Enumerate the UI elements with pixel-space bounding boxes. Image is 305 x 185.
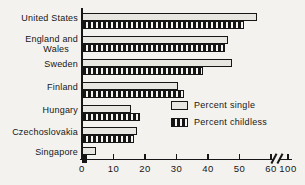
x-tick-label: 100 bbox=[279, 163, 296, 174]
x-tick bbox=[207, 154, 209, 159]
country-label: England andWales bbox=[0, 34, 78, 54]
x-tick-label: 60 bbox=[265, 163, 277, 174]
country-label: Czechoslovakia bbox=[0, 127, 78, 137]
legend-swatch-single-icon bbox=[171, 101, 188, 110]
x-tick-label: 10 bbox=[108, 163, 120, 174]
x-tick bbox=[239, 154, 241, 159]
bar-percent-childless bbox=[82, 113, 140, 121]
bar-percent-single bbox=[82, 82, 178, 90]
legend-item-childless: Percent childless bbox=[171, 117, 267, 127]
legend-swatch-childless-icon bbox=[171, 118, 188, 127]
x-tick-label: 50 bbox=[234, 163, 246, 174]
x-tick-label: 0 bbox=[79, 163, 85, 174]
x-axis bbox=[80, 159, 273, 161]
legend-label-single: Percent single bbox=[194, 100, 255, 110]
x-axis-break-segment bbox=[279, 159, 292, 161]
bar-percent-childless bbox=[82, 90, 184, 98]
x-tick bbox=[176, 154, 178, 159]
x-tick bbox=[144, 154, 146, 159]
bar-percent-single bbox=[82, 105, 131, 113]
x-tick-label: 40 bbox=[202, 163, 214, 174]
x-tick bbox=[287, 154, 289, 159]
x-tick bbox=[113, 154, 115, 159]
x-tick bbox=[270, 154, 272, 159]
chart-area: 0102030405060100United StatesEngland and… bbox=[0, 0, 305, 185]
bar-percent-childless bbox=[82, 44, 225, 52]
country-label: United States bbox=[0, 13, 78, 23]
x-tick-label: 30 bbox=[171, 163, 183, 174]
x-tick-label: 20 bbox=[139, 163, 151, 174]
bar-percent-single bbox=[82, 127, 137, 135]
legend: Percent single Percent childless bbox=[171, 100, 267, 134]
country-label: Sweden bbox=[0, 59, 78, 69]
bar-percent-childless bbox=[82, 67, 203, 75]
country-label: Singapore bbox=[0, 147, 78, 157]
bar-percent-single bbox=[82, 36, 228, 44]
country-label: Hungary bbox=[0, 105, 78, 115]
bar-percent-childless bbox=[82, 155, 87, 163]
bar-percent-single bbox=[82, 13, 257, 21]
bar-chart-figure: 0102030405060100United StatesEngland and… bbox=[0, 0, 305, 185]
bar-percent-single bbox=[82, 147, 96, 155]
bar-percent-childless bbox=[82, 135, 134, 143]
legend-item-single: Percent single bbox=[171, 100, 267, 110]
bar-percent-single bbox=[82, 59, 232, 67]
country-label: Finland bbox=[0, 82, 78, 92]
legend-label-childless: Percent childless bbox=[194, 117, 267, 127]
bar-percent-childless bbox=[82, 21, 244, 29]
